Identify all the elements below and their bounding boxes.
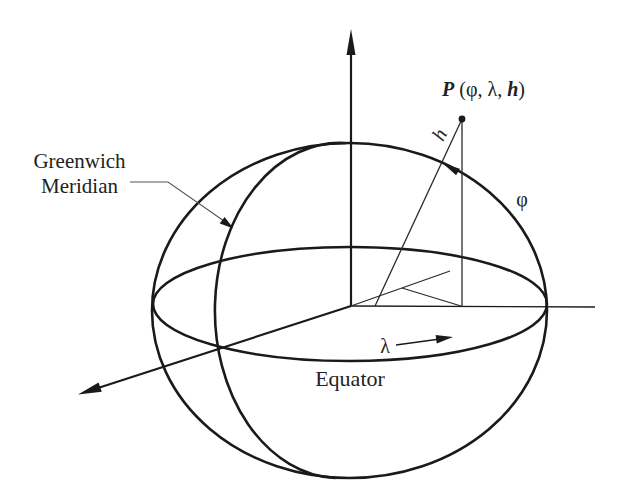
latitude-label: φ (516, 188, 528, 211)
point-P-name: P (441, 78, 455, 100)
point-P-close-paren: ) (518, 78, 525, 101)
point-P-lambda: λ (487, 78, 497, 100)
point-P-open-paren: ( (454, 78, 466, 101)
point-P-h: h (507, 78, 518, 100)
longitude-label: λ (380, 335, 390, 357)
point-P-sep1: , (477, 78, 487, 100)
geodetic-coordinate-diagram: P (φ, λ, h) h φ λ Equator Greenwich Meri… (0, 0, 625, 503)
meridian-label-line2: Meridian (41, 174, 118, 198)
point-P-sep2: , (497, 78, 507, 100)
equator-label: Equator (315, 366, 385, 391)
point-P-phi: φ (466, 78, 478, 101)
meridian-label-line1: Greenwich (33, 149, 126, 173)
point-P-label: P (φ, λ, h) (417, 78, 540, 101)
background (0, 0, 625, 503)
point-P-dot (459, 116, 466, 123)
